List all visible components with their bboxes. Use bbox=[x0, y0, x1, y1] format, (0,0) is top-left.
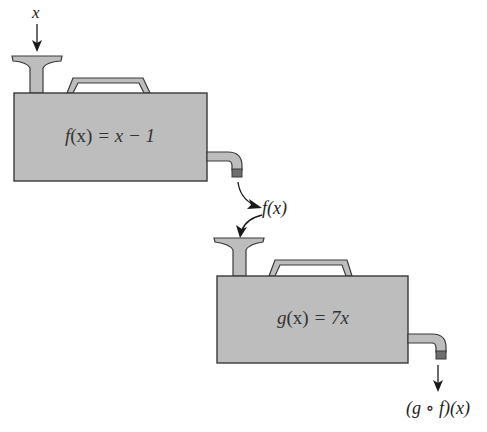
output-arrow bbox=[433, 365, 443, 392]
handle-icon bbox=[67, 78, 150, 93]
machine-f: f(x) = x − 1 bbox=[12, 56, 242, 181]
output-label: (g ∘ f)(x) bbox=[406, 398, 470, 419]
funnel-icon bbox=[12, 56, 62, 93]
funnel-icon bbox=[214, 238, 264, 276]
intermediate-label: f(x) bbox=[262, 198, 287, 219]
machine-g: g(x) = 7x bbox=[214, 238, 446, 363]
machine-f-label: f(x) = x − 1 bbox=[65, 125, 155, 147]
spout-icon bbox=[408, 334, 446, 359]
input-arrow bbox=[32, 24, 42, 52]
handle-icon bbox=[269, 260, 352, 276]
machine-g-label: g(x) = 7x bbox=[277, 307, 349, 329]
curved-arrow-out bbox=[238, 182, 262, 209]
input-label: x bbox=[31, 3, 40, 22]
function-machine-diagram: x f(x) = x − 1 f(x) bbox=[0, 0, 487, 432]
curved-arrow-in bbox=[236, 215, 262, 238]
spout-icon bbox=[207, 152, 242, 177]
